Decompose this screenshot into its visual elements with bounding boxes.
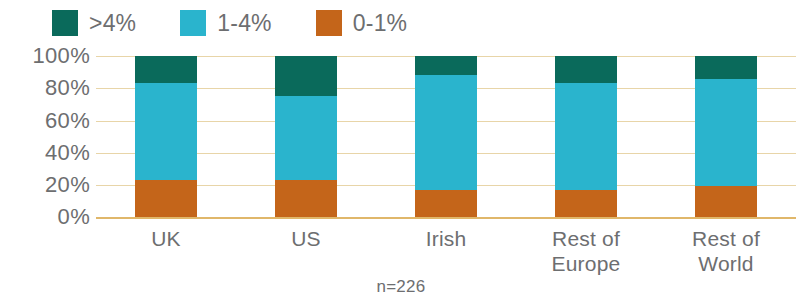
bar-segment-1-4-[interactable]	[695, 79, 757, 187]
bar-segment-0-1-[interactable]	[695, 186, 757, 217]
y-axis-tick-80: 80%	[45, 77, 90, 99]
x-axis-label-line: Rest of	[656, 226, 796, 251]
stacked-bar-irish[interactable]	[415, 56, 477, 217]
x-axis-label-line: World	[656, 251, 796, 276]
y-axis-tick-20: 20%	[45, 174, 90, 196]
y-axis-tick-100: 100%	[33, 45, 90, 67]
legend-swatch-above-4-icon	[52, 10, 78, 36]
y-axis-tick-0: 0%	[58, 206, 90, 228]
x-axis-labels: UKUSIrishRest ofEuropeRest ofWorld	[96, 226, 796, 282]
x-axis-label-line: Irish	[376, 226, 516, 251]
stacked-bar-uk[interactable]	[135, 56, 197, 217]
y-axis: 100% 80% 60% 40% 20% 0%	[0, 44, 96, 219]
stacked-bar-us[interactable]	[275, 56, 337, 217]
bar-slot-uk	[96, 44, 236, 219]
stacked-bar-rest-of-europe[interactable]	[555, 56, 617, 217]
bar-segment-0-1-[interactable]	[415, 190, 477, 217]
bar-group	[96, 44, 796, 219]
chart-legend: >4% 1-4% 0-1%	[52, 6, 472, 40]
y-axis-tick-40: 40%	[45, 142, 90, 164]
bar-segment-1-4-[interactable]	[275, 96, 337, 180]
legend-swatch-0-to-1-icon	[316, 10, 342, 36]
bar-segment-0-1-[interactable]	[135, 180, 197, 217]
bar-segment-1-4-[interactable]	[135, 83, 197, 180]
bar-slot-irish	[376, 44, 516, 219]
bar-segment--4-[interactable]	[135, 56, 197, 83]
bar-segment-0-1-[interactable]	[275, 180, 337, 217]
legend-label-1-to-4: 1-4%	[217, 12, 272, 35]
x-axis-label-irish: Irish	[376, 226, 516, 282]
y-axis-tick-60: 60%	[45, 110, 90, 132]
stacked-bar-rest-of-world[interactable]	[695, 56, 757, 217]
legend-label-0-to-1: 0-1%	[353, 12, 408, 35]
legend-item-0-to-1: 0-1%	[316, 10, 408, 36]
bar-segment--4-[interactable]	[415, 56, 477, 75]
legend-item-above-4: >4%	[52, 10, 136, 36]
x-axis-label-rest-of-world: Rest ofWorld	[656, 226, 796, 282]
legend-item-1-to-4: 1-4%	[180, 10, 272, 36]
bar-segment-1-4-[interactable]	[415, 75, 477, 189]
bar-slot-rest-of-europe	[516, 44, 656, 219]
plot-area: 100% 80% 60% 40% 20% 0%	[0, 44, 802, 234]
x-axis-label-line: US	[236, 226, 376, 251]
chart-footnote: n=226	[0, 278, 802, 296]
x-axis-label-uk: UK	[96, 226, 236, 282]
bar-segment-1-4-[interactable]	[555, 83, 617, 189]
bar-segment-0-1-[interactable]	[555, 190, 617, 217]
bar-segment--4-[interactable]	[555, 56, 617, 83]
x-axis-label-line: UK	[96, 226, 236, 251]
legend-label-above-4: >4%	[89, 12, 136, 35]
legend-swatch-1-to-4-icon	[180, 10, 206, 36]
bar-slot-rest-of-world	[656, 44, 796, 219]
bar-slot-us	[236, 44, 376, 219]
x-axis-label-line: Europe	[516, 251, 656, 276]
stacked-bar-chart: >4% 1-4% 0-1% 100% 80% 60% 40% 20% 0%	[0, 0, 802, 302]
bar-segment--4-[interactable]	[695, 56, 757, 79]
bar-segment--4-[interactable]	[275, 56, 337, 96]
x-axis-label-us: US	[236, 226, 376, 282]
x-axis-label-line: Rest of	[516, 226, 656, 251]
x-axis-label-rest-of-europe: Rest ofEurope	[516, 226, 656, 282]
